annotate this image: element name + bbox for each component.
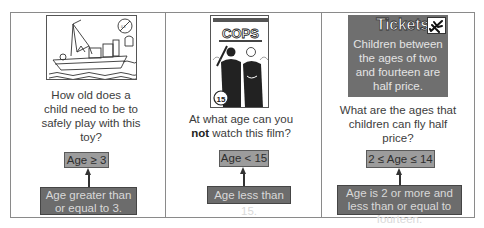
tickets-sign: Tickets Children between the ages of two… <box>348 15 448 97</box>
tickets-title: Tickets <box>376 16 429 34</box>
arrow-up-icon <box>240 167 246 174</box>
toy-boat-icon: 0-3 <box>47 16 137 80</box>
arrow-line <box>243 172 245 186</box>
arrow-up-icon <box>396 168 402 175</box>
toy-boat-illustration: 0-3 <box>46 15 137 80</box>
description-box: Age greater than or equal to 3. <box>40 187 137 215</box>
question-part-2: watch this film? <box>212 127 291 139</box>
question-text: How old does a child need to be to safel… <box>38 88 144 144</box>
film-poster-icon: COPS 15 <box>211 16 269 108</box>
plane-icon-box <box>427 17 446 34</box>
panel-divider-1 <box>165 12 166 218</box>
panel-divider-2 <box>321 12 322 218</box>
svg-text:0-3: 0-3 <box>121 25 126 29</box>
tickets-body: Children between the ages of two and fou… <box>352 37 444 93</box>
question-text: At what age can you not watch this film? <box>176 112 306 140</box>
inequality-box: 2 ≤ Age ≤ 14 <box>366 150 435 168</box>
airplane-icon <box>428 18 445 33</box>
question-part-1: At what age can you <box>189 113 293 125</box>
description-box: Age less than 15. <box>207 186 291 204</box>
question-text: What are the ages that children can fly … <box>332 103 464 145</box>
question-emphasis: not <box>191 127 209 139</box>
description-box: Age is 2 or more and less than or equal … <box>337 185 462 215</box>
svg-text:COPS: COPS <box>222 26 259 41</box>
inequality-box: Age < 15 <box>219 150 269 167</box>
film-poster-illustration: COPS 15 <box>210 15 269 108</box>
inequality-box: Age ≥ 3 <box>64 152 109 168</box>
svg-text:15: 15 <box>217 95 226 104</box>
arrow-up-icon <box>85 168 91 175</box>
arrow-line <box>88 173 90 187</box>
